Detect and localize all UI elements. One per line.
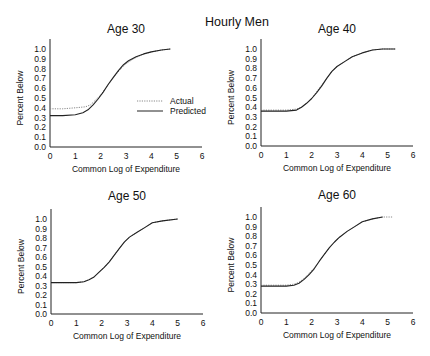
x-tick-label: 4: [149, 151, 154, 161]
x-tick-label: 5: [385, 317, 390, 327]
x-tick-label: 6: [411, 150, 416, 160]
panel-age-50: Age 500.00.10.20.30.40.50.60.70.80.91.00…: [16, 189, 206, 341]
y-tick-label: 0.2: [245, 289, 257, 299]
y-tick-label: 0.1: [35, 300, 47, 310]
x-tick-label: 6: [200, 151, 205, 161]
x-tick-label: 6: [411, 317, 416, 327]
x-tick-label: 4: [150, 318, 155, 328]
x-tick-label: 0: [48, 151, 53, 161]
y-tick-label: 0.4: [35, 271, 47, 281]
figure: Hourly Men Age 300.00.10.20.30.40.50.60.…: [0, 0, 430, 356]
y-tick-label: 0.3: [34, 113, 46, 123]
y-tick-label: 0.2: [35, 290, 47, 300]
x-tick-label: 0: [49, 318, 54, 328]
x-tick-label: 1: [284, 150, 289, 160]
y-tick-label: 1.0: [34, 44, 46, 54]
y-axis-label: Percent Below: [16, 238, 26, 294]
series-actual-line: [261, 49, 395, 110]
y-tick-label: 0.5: [245, 260, 257, 270]
y-tick-label: 0.7: [35, 243, 47, 253]
x-tick-label: 6: [201, 318, 206, 328]
y-tick-label: 0.3: [245, 279, 257, 289]
y-tick-label: 0.9: [245, 54, 257, 64]
y-tick-label: 0.4: [34, 103, 46, 113]
y-tick-label: 0.3: [245, 112, 257, 122]
series-actual-line: [50, 49, 170, 109]
x-tick-label: 3: [124, 151, 129, 161]
y-tick-label: 0.1: [245, 131, 257, 141]
y-axis-label: Percent Below: [15, 70, 25, 126]
y-axis-label: Percent Below: [226, 69, 236, 125]
y-tick-label: 0.6: [245, 250, 257, 260]
panel-age-60: Age 600.00.10.20.30.40.50.60.70.80.91.00…: [226, 188, 416, 340]
y-tick-label: 0.9: [245, 222, 257, 232]
x-tick-label: 1: [284, 317, 289, 327]
y-tick-label: 0.8: [245, 63, 257, 73]
x-tick-label: 1: [74, 318, 79, 328]
y-tick-label: 0.0: [245, 141, 257, 151]
y-tick-label: 0.5: [245, 93, 257, 103]
series-predicted-line: [51, 219, 178, 283]
x-tick-label: 2: [309, 317, 314, 327]
y-tick-label: 0.8: [34, 64, 46, 74]
legend: Actual Predicted: [137, 96, 206, 116]
y-tick-label: 0.4: [245, 270, 257, 280]
series-predicted-line: [50, 49, 170, 116]
y-tick-label: 0.8: [245, 231, 257, 241]
x-axis-label: Common Log of Expenditure: [73, 331, 181, 341]
y-tick-label: 0.6: [245, 83, 257, 93]
y-tick-label: 0.6: [34, 83, 46, 93]
y-tick-label: 0.6: [35, 252, 47, 262]
y-tick-label: 0.8: [35, 233, 47, 243]
x-tick-label: 4: [360, 150, 365, 160]
y-tick-label: 0.1: [34, 132, 46, 142]
y-tick-label: 0.5: [35, 262, 47, 272]
x-tick-label: 0: [259, 150, 264, 160]
x-tick-label: 2: [99, 318, 104, 328]
x-axis-label: Common Log of Expenditure: [72, 164, 180, 174]
y-tick-label: 0.7: [245, 73, 257, 83]
panel-age-40: Age 400.00.10.20.30.40.50.60.70.80.91.00…: [226, 22, 416, 173]
series-predicted-line: [261, 49, 395, 111]
panel-title: Age 30: [107, 22, 145, 36]
y-tick-label: 1.0: [245, 212, 257, 222]
x-tick-label: 5: [174, 151, 179, 161]
figure-suptitle: Hourly Men: [205, 15, 269, 29]
y-tick-label: 0.0: [34, 142, 46, 152]
x-axis-label: Common Log of Expenditure: [283, 163, 391, 173]
y-tick-label: 1.0: [35, 214, 47, 224]
panel-title: Age 50: [108, 189, 146, 203]
y-tick-label: 0.4: [245, 102, 257, 112]
series-predicted-line: [261, 217, 383, 286]
x-tick-label: 1: [73, 151, 78, 161]
legend-predicted-label: Predicted: [170, 106, 206, 116]
y-tick-label: 0.7: [245, 241, 257, 251]
y-tick-label: 0.2: [34, 122, 46, 132]
panel-title: Age 60: [318, 188, 356, 202]
y-tick-label: 0.9: [35, 224, 47, 234]
x-tick-label: 5: [385, 150, 390, 160]
x-tick-label: 2: [309, 150, 314, 160]
x-tick-label: 3: [125, 318, 130, 328]
y-tick-label: 0.3: [35, 281, 47, 291]
panel-title: Age 40: [318, 22, 356, 36]
series-actual-line: [51, 219, 178, 283]
y-axis-label: Percent Below: [226, 237, 236, 293]
y-tick-label: 0.2: [245, 122, 257, 132]
y-tick-label: 0.1: [245, 298, 257, 308]
y-tick-label: 0.9: [34, 54, 46, 64]
x-tick-label: 2: [98, 151, 103, 161]
x-tick-label: 3: [335, 317, 340, 327]
x-tick-label: 5: [175, 318, 180, 328]
x-tick-label: 3: [335, 150, 340, 160]
legend-actual-label: Actual: [170, 96, 194, 106]
x-tick-label: 4: [360, 317, 365, 327]
y-tick-label: 0.0: [35, 309, 47, 319]
y-tick-label: 0.5: [34, 93, 46, 103]
y-tick-label: 0.7: [34, 73, 46, 83]
y-tick-label: 1.0: [245, 44, 257, 54]
y-tick-label: 0.0: [245, 308, 257, 318]
x-axis-label: Common Log of Expenditure: [283, 330, 391, 340]
x-tick-label: 0: [259, 317, 264, 327]
